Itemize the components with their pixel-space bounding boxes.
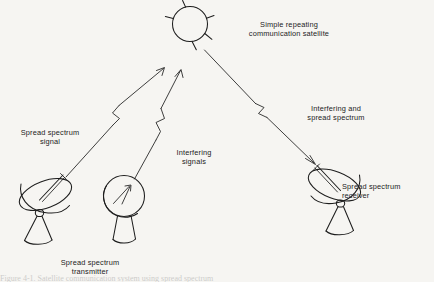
transmitter-feed-boom-edge bbox=[43, 178, 65, 202]
label-interfering-line1: Interfering bbox=[177, 148, 212, 157]
uplink-arrow-upper-shaft bbox=[119, 69, 164, 106]
transmitter-pedestal-sides bbox=[25, 216, 53, 240]
label-interfering-and-spread-spectrum: Interfering and spread spectrum bbox=[288, 104, 384, 123]
label-communication-satellite: Simple repeating communication satellite bbox=[225, 20, 353, 39]
jammer-dish-bowl bbox=[104, 186, 138, 218]
label-transmitter-line1: Spread spectrum bbox=[61, 258, 120, 267]
label-interfering-signals: Interfering signals bbox=[152, 148, 236, 167]
label-spread-spectrum-signal: Spread spectrum signal bbox=[2, 128, 98, 147]
jammer-feed-line-b bbox=[122, 187, 130, 205]
downlink-arrow-lower-shaft bbox=[267, 118, 314, 164]
jammer-pedestal-base bbox=[113, 239, 136, 243]
communication-satellite bbox=[165, 1, 214, 50]
figure-caption: Figure 4-1. Satellite communication syst… bbox=[0, 274, 434, 282]
label-uplink-line1: Spread spectrum bbox=[21, 128, 80, 137]
transmitter-dish-rim bbox=[15, 172, 76, 217]
downlink-arrow-upper-shaft bbox=[205, 50, 256, 104]
downlink-arrow-zigzag bbox=[256, 104, 268, 118]
uplink-arrow-zigzag bbox=[113, 106, 120, 126]
jam-arrow-zigzag bbox=[156, 109, 165, 141]
receiver-pedestal-sides bbox=[326, 207, 354, 231]
label-interfering-line2: signals bbox=[182, 157, 206, 166]
label-downlink-line1: Interfering and bbox=[311, 104, 361, 113]
jammer-pedestal-sides bbox=[113, 216, 136, 240]
label-receiver-line2: receiver bbox=[342, 191, 370, 200]
label-satellite-line1: Simple repeating bbox=[260, 20, 318, 29]
receiver-pedestal-base bbox=[326, 231, 354, 235]
label-satellite-line2: communication satellite bbox=[249, 29, 329, 38]
figure-root: .ink { fill: none; stroke: #1d1d1d; stro… bbox=[0, 0, 434, 282]
uplink-spread-spectrum-arrow bbox=[66, 68, 165, 178]
spread-spectrum-transmitter-dish bbox=[15, 172, 76, 244]
jammer-feed-line-a bbox=[114, 186, 130, 204]
label-downlink-line2: spread spectrum bbox=[307, 113, 364, 122]
jam-arrow-upper-shaft bbox=[161, 71, 181, 109]
label-spread-spectrum-receiver: Spread spectrum receiver bbox=[342, 182, 434, 201]
transmitter-pedestal-base bbox=[25, 240, 53, 244]
label-uplink-line2: signal bbox=[40, 137, 60, 146]
interfering-jammer-dish bbox=[104, 176, 145, 244]
satellite-body-icon bbox=[173, 7, 208, 42]
label-receiver-line1: Spread spectrum bbox=[342, 182, 401, 191]
receiver-feed-boom-edge bbox=[315, 168, 338, 192]
